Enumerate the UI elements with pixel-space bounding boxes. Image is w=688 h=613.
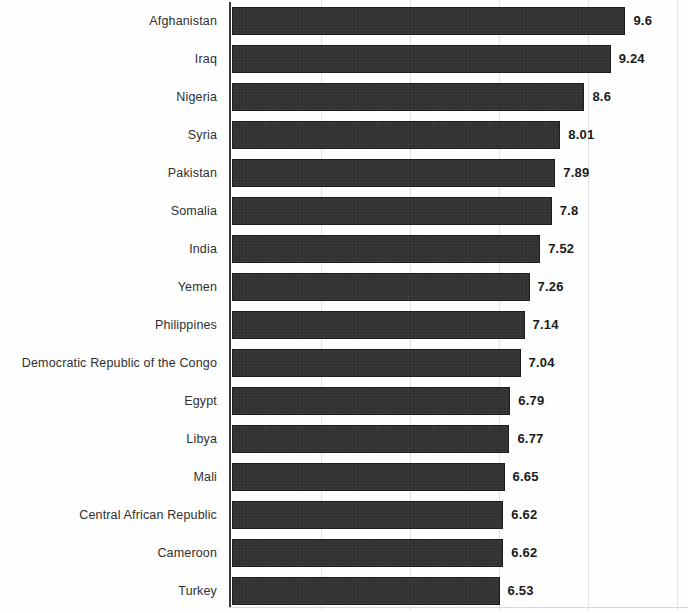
x-axis-baseline	[229, 607, 688, 608]
category-label: Cameroon	[157, 534, 217, 572]
bar-value-label: 6.65	[513, 463, 539, 491]
bar	[232, 121, 560, 149]
category-label: Egypt	[184, 382, 217, 420]
bar-row: Yemen7.26	[229, 268, 688, 306]
bar-value-label: 8.01	[568, 121, 594, 149]
bar-value-label: 7.52	[548, 235, 574, 263]
bar	[232, 387, 510, 415]
bar-value-label: 7.89	[563, 159, 589, 187]
bar-value-label: 8.6	[592, 83, 611, 111]
bar	[232, 311, 525, 339]
bar	[232, 501, 503, 529]
bar-row: Libya6.77	[229, 420, 688, 458]
bar-value-label: 7.26	[538, 273, 564, 301]
bar	[232, 349, 521, 377]
bar-row: Turkey6.53	[229, 572, 688, 610]
bar-value-label: 6.62	[511, 539, 537, 567]
bar-value-label: 6.77	[517, 425, 543, 453]
bar	[232, 577, 500, 605]
bar-row: Democratic Republic of the Congo7.04	[229, 344, 688, 382]
category-label: Nigeria	[176, 78, 217, 116]
bar	[232, 425, 509, 453]
category-label: Turkey	[178, 572, 217, 610]
category-label: Democratic Republic of the Congo	[22, 344, 217, 382]
bar-value-label: 7.8	[560, 197, 579, 225]
bar-value-label: 6.53	[508, 577, 534, 605]
bar	[232, 83, 584, 111]
bar-row: Pakistan7.89	[229, 154, 688, 192]
bar-row: Somalia7.8	[229, 192, 688, 230]
bar-value-label: 6.62	[511, 501, 537, 529]
category-label: Central African Republic	[79, 496, 217, 534]
bar	[232, 45, 611, 73]
bar	[232, 235, 540, 263]
bar	[232, 197, 552, 225]
bar-row: Afghanistan9.6	[229, 2, 688, 40]
category-label: Libya	[186, 420, 217, 458]
bar	[232, 159, 555, 187]
bar-value-label: 7.14	[533, 311, 559, 339]
bar	[232, 539, 503, 567]
bar-row: Iraq9.24	[229, 40, 688, 78]
bar-value-label: 9.24	[619, 45, 645, 73]
category-label: Somalia	[171, 192, 217, 230]
bar-row: Syria8.01	[229, 116, 688, 154]
bar-value-label: 7.04	[529, 349, 555, 377]
category-label: Iraq	[195, 40, 217, 78]
bar-chart: Afghanistan9.6Iraq9.24Nigeria8.6Syria8.0…	[0, 0, 688, 613]
bar-row: Egypt6.79	[229, 382, 688, 420]
category-label: Afghanistan	[149, 2, 217, 40]
category-label: Syria	[188, 116, 217, 154]
bar	[232, 463, 505, 491]
bar-row: Philippines7.14	[229, 306, 688, 344]
bar-value-label: 6.79	[518, 387, 544, 415]
bar-row: Mali6.65	[229, 458, 688, 496]
y-axis-line	[229, 2, 231, 608]
category-label: India	[189, 230, 217, 268]
bar	[232, 7, 625, 35]
bar-row: Nigeria8.6	[229, 78, 688, 116]
bar-row: Central African Republic6.62	[229, 496, 688, 534]
plot-area: Afghanistan9.6Iraq9.24Nigeria8.6Syria8.0…	[229, 0, 688, 610]
bar-row: Cameroon6.62	[229, 534, 688, 572]
category-label: Yemen	[178, 268, 217, 306]
bar-value-label: 9.6	[633, 7, 652, 35]
category-label: Mali	[193, 458, 217, 496]
bar	[232, 273, 530, 301]
bar-row: India7.52	[229, 230, 688, 268]
category-label: Philippines	[155, 306, 217, 344]
category-label: Pakistan	[168, 154, 217, 192]
